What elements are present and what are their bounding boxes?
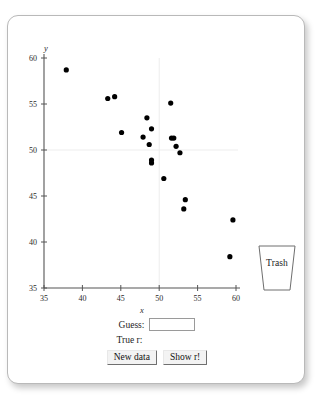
true-r-label: True r:	[117, 335, 143, 345]
data-point[interactable]	[177, 150, 182, 155]
data-point[interactable]	[230, 217, 235, 222]
y-axis-tick-label: 40	[29, 238, 37, 247]
y-axis-tick-label: 45	[29, 192, 37, 201]
data-point[interactable]	[147, 142, 152, 147]
y-axis-tick-label: 35	[29, 284, 37, 293]
data-point[interactable]	[171, 135, 176, 140]
trash-can-label: Trash	[256, 258, 298, 268]
data-point[interactable]	[64, 67, 69, 72]
show-r-button[interactable]: Show r!	[163, 350, 207, 365]
new-data-button[interactable]: New data	[107, 350, 157, 365]
trash-can-icon	[256, 244, 298, 292]
data-point[interactable]	[149, 160, 154, 165]
x-axis-tick-label: 45	[117, 294, 125, 303]
true-r-row: True r:	[8, 335, 306, 345]
y-axis-label: y	[43, 43, 48, 53]
data-point[interactable]	[149, 126, 154, 131]
x-axis-tick-label: 35	[40, 294, 48, 303]
data-point[interactable]	[227, 254, 232, 259]
data-point[interactable]	[140, 135, 145, 140]
x-axis-tick-label: 60	[232, 294, 240, 303]
guess-row: Guess:	[8, 318, 306, 331]
x-axis-tick-label: 40	[78, 294, 86, 303]
data-point[interactable]	[161, 176, 166, 181]
y-axis-tick-label: 60	[29, 54, 37, 63]
trash-can[interactable]: Trash	[256, 244, 298, 292]
x-axis-label: x	[139, 305, 144, 315]
guess-input[interactable]	[149, 318, 195, 331]
data-point[interactable]	[119, 130, 124, 135]
x-axis-tick-label: 50	[155, 294, 163, 303]
data-point[interactable]	[168, 100, 173, 105]
correlation-applet-panel: 354045505560354045505560yx Trash Guess: …	[7, 15, 305, 384]
x-axis-tick-label: 55	[194, 294, 202, 303]
guess-label: Guess:	[119, 320, 145, 330]
controls-area: Guess: True r: New data Show r!	[8, 318, 306, 369]
data-point[interactable]	[144, 115, 149, 120]
data-point[interactable]	[183, 197, 188, 202]
data-point[interactable]	[105, 96, 110, 101]
data-point[interactable]	[181, 206, 186, 211]
button-row: New data Show r!	[8, 350, 306, 365]
data-point[interactable]	[173, 144, 178, 149]
y-axis-tick-label: 50	[29, 146, 37, 155]
y-axis-tick-label: 55	[29, 100, 37, 109]
data-point[interactable]	[112, 94, 117, 99]
